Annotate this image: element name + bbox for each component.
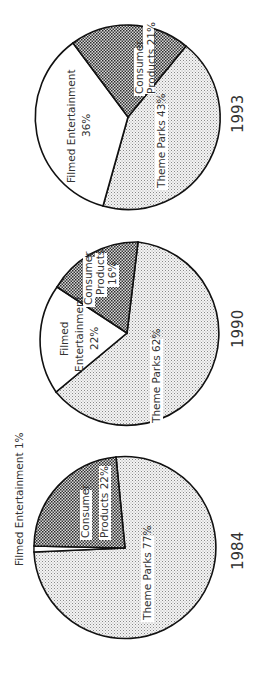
year-label-1984: 1984: [229, 532, 247, 570]
label-filmed-entertainment-1993-line1: Filmed Entertainment: [65, 69, 77, 183]
label-filmed-entertainment-1990-line1: Filmed: [58, 322, 70, 356]
label-consumer-products-1984-line2: Products 22%: [98, 466, 110, 538]
pie-charts: Consumer Products 21% Theme Parks 43% Fi…: [0, 0, 279, 681]
label-filmed-entertainment-1990-line2: Entertainment: [73, 296, 85, 372]
label-consumer-products-1993-line1: Consumer: [133, 40, 145, 94]
label-consumer-products-1984-line1: Consumer: [79, 484, 91, 538]
year-label-1993: 1993: [229, 95, 247, 133]
year-label-1990: 1990: [229, 310, 247, 348]
label-theme-parks-1984: Theme Parks 77%: [141, 526, 153, 621]
label-theme-parks-1990: Theme Parks 62%: [150, 329, 162, 424]
pie-1990: Consumer Products 16% Theme Parks 62% Fi…: [40, 242, 247, 425]
pie-1984: Consumer Products 22% Theme Parks 77% Fi…: [13, 432, 247, 638]
label-consumer-products-1993-line2: Products 21%: [145, 22, 157, 94]
label-filmed-entertainment-1984: Filmed Entertainment 1%: [13, 432, 25, 566]
label-filmed-entertainment-1993-line2: 36%: [80, 114, 92, 137]
label-consumer-products-1990-line3: 16%: [106, 262, 118, 285]
label-theme-parks-1993: Theme Parks 43%: [155, 94, 167, 189]
label-consumer-products-1990-line2: Products: [94, 250, 106, 295]
label-filmed-entertainment-1990-line3: 22%: [88, 327, 100, 350]
pie-1993: Consumer Products 21% Theme Parks 43% Fi…: [35, 22, 247, 210]
